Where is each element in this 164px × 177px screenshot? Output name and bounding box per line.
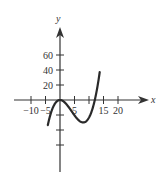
svg-text:40: 40 (43, 65, 53, 76)
svg-text:15: 15 (99, 105, 109, 116)
svg-text:60: 60 (43, 50, 53, 61)
cubic-curve (48, 72, 100, 125)
y-axis-label: y (55, 13, 61, 24)
svg-text:20: 20 (43, 80, 53, 91)
chart: x y −10−551520 204060 (0, 0, 164, 177)
svg-text:−5: −5 (40, 105, 51, 116)
y-ticks: 204060 (43, 50, 64, 146)
svg-text:20: 20 (113, 105, 123, 116)
svg-text:−10: −10 (23, 105, 39, 116)
x-axis-label: x (150, 94, 156, 105)
